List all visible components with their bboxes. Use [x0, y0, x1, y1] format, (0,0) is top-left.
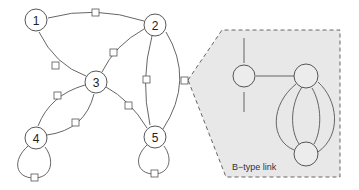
node-5-label: 5 [152, 131, 159, 145]
node-1: 1 [25, 9, 47, 31]
link-node-2-1 [92, 9, 99, 16]
detail-node-bottom [294, 142, 318, 166]
node-5: 5 [144, 126, 166, 148]
link-node-3-4 [54, 92, 61, 99]
link-node-5-2-callout [181, 77, 188, 84]
link-node-4-4 [31, 174, 38, 181]
node-2-label: 2 [152, 19, 159, 33]
edge-4-to-3 [47, 94, 94, 135]
link-node-2-5 [143, 76, 150, 83]
link-node-5-3 [125, 102, 132, 109]
node-4-label: 4 [33, 132, 40, 146]
node-4: 4 [25, 127, 47, 149]
edge-3-to-1 [39, 32, 86, 76]
node-3: 3 [85, 71, 107, 93]
link-node-3-1 [52, 62, 59, 69]
node-1-label: 1 [33, 14, 40, 28]
link-node-3-2 [110, 49, 117, 56]
node-3-label: 3 [93, 76, 100, 90]
callout-caption: B−type link [232, 162, 277, 172]
node-2: 2 [144, 14, 166, 36]
link-node-5-5 [151, 170, 158, 177]
edge-3-to-2 [102, 29, 144, 72]
detail-node-left [233, 65, 255, 87]
diagram-canvas: B−type link [0, 0, 359, 190]
edge-5-to-2 [163, 32, 180, 129]
graph-edges [18, 9, 188, 181]
b-type-link-callout: B−type link [188, 30, 340, 177]
edge-4-self-loop [18, 146, 51, 178]
detail-node-top [294, 64, 318, 88]
link-node-4-3 [72, 119, 79, 126]
